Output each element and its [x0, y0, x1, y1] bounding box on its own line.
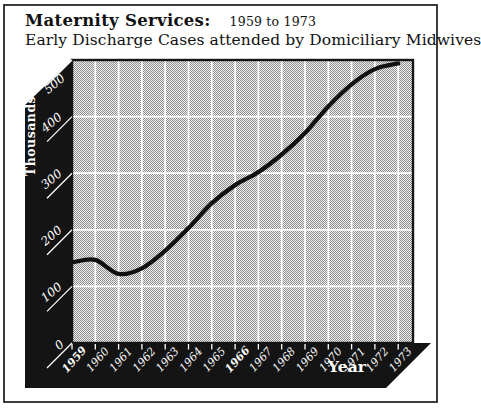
chart-title: Maternity Services:	[25, 11, 211, 30]
y-axis-title: Thousands	[23, 96, 38, 176]
chart-header: Maternity Services: 1959 to 1973 Early D…	[25, 11, 481, 49]
chart-title-range: 1959 to 1973	[230, 14, 317, 29]
chart-subtitle: Early Discharge Cases attended by Domici…	[25, 31, 481, 49]
x-axis-title: Year	[327, 357, 367, 376]
plot-area	[72, 60, 413, 343]
title-line: Maternity Services: 1959 to 1973	[25, 11, 481, 30]
